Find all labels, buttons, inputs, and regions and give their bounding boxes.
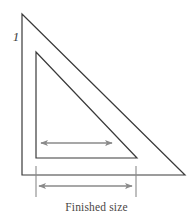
step-number-label: 1 (6, 27, 26, 47)
finished-size-caption: Finished size (0, 201, 193, 213)
triangle-diagram-svg (0, 0, 193, 223)
extension-lines-group (36, 166, 136, 197)
inner-triangle-group (36, 52, 137, 158)
figure-canvas: 1 Finished size (0, 0, 193, 223)
inner-triangle (36, 52, 137, 158)
outer-triangle (22, 14, 185, 175)
outer-triangle-group (22, 14, 185, 175)
